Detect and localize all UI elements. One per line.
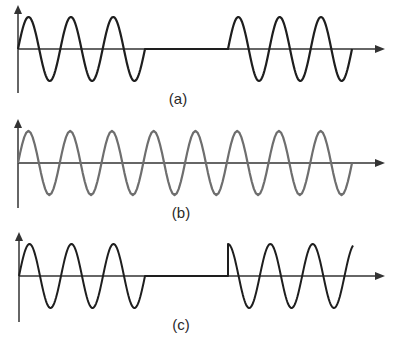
- panel-b-x-axis-arrow-icon: [375, 159, 385, 167]
- panel-c-y-axis-arrow-icon: [15, 232, 23, 241]
- panel-a-y-axis-arrow-icon: [14, 5, 22, 14]
- panel-a-x-axis-arrow-icon: [375, 45, 385, 53]
- panel-b-y-axis-arrow-icon: [14, 119, 22, 128]
- panel-c-label: (c): [172, 316, 190, 333]
- panel-a: (a): [14, 5, 385, 107]
- panel-b: (b): [14, 119, 385, 221]
- panel-a-label: (a): [169, 90, 187, 107]
- panel-b-label: (b): [172, 204, 190, 221]
- waveform-diagram: (a) (b) (c): [0, 0, 396, 349]
- panel-c: (c): [15, 232, 385, 333]
- panel-c-x-axis-arrow-icon: [375, 272, 385, 280]
